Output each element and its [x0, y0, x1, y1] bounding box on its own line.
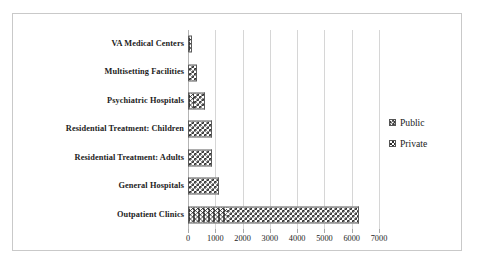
x-axis-tick-label: 0 [186, 234, 190, 243]
x-axis: 01000200030004000500060007000 [188, 229, 379, 251]
x-axis-tick [243, 229, 244, 233]
bar-segment-private[interactable] [189, 121, 212, 138]
y-axis-category-labels: VA Medical CentersMultisetting Facilitie… [13, 30, 184, 229]
category-label: Residential Treatment: Children [66, 115, 184, 143]
plot-area [188, 30, 379, 229]
x-axis-tick [188, 229, 189, 233]
bar-row[interactable] [188, 115, 379, 143]
legend-label: Private [400, 138, 427, 149]
bar-row[interactable] [188, 201, 379, 229]
bar-segment-public[interactable] [188, 36, 192, 53]
x-axis-tick [270, 229, 271, 233]
x-axis-tick [352, 229, 353, 233]
wavy-swatch-icon [389, 119, 396, 126]
bar-segment-public[interactable] [188, 206, 227, 223]
chart-plot-wrapper: VA Medical CentersMultisetting Facilitie… [13, 14, 463, 252]
stacked-bar[interactable] [188, 36, 192, 53]
x-axis-tick [324, 229, 325, 233]
gridline-7000 [379, 30, 380, 229]
x-axis-tick-label: 1000 [207, 234, 224, 243]
bar-segment-private[interactable] [189, 178, 219, 195]
stacked-bar[interactable] [188, 64, 197, 81]
category-label: Outpatient Clinics [117, 201, 184, 229]
bar-row[interactable] [188, 172, 379, 200]
bar-segment-private[interactable] [194, 93, 205, 110]
x-axis-tick-label: 2000 [234, 234, 251, 243]
stacked-bar[interactable] [188, 93, 205, 110]
x-axis-tick [215, 229, 216, 233]
legend-label: Public [400, 117, 425, 128]
x-axis-tick-label: 5000 [316, 234, 333, 243]
chart-legend: PublicPrivate [389, 112, 461, 154]
bar-row[interactable] [188, 58, 379, 86]
chart-frame: VA Medical CentersMultisetting Facilitie… [12, 13, 462, 251]
category-label: VA Medical Centers [111, 30, 184, 58]
category-label: General Hospitals [118, 172, 184, 200]
category-label: Psychiatric Hospitals [107, 87, 184, 115]
legend-item-private[interactable]: Private [389, 133, 461, 154]
bar-segment-private[interactable] [189, 149, 212, 166]
legend-item-public[interactable]: Public [389, 112, 461, 133]
bar-segment-private[interactable] [188, 64, 197, 81]
stacked-bar[interactable] [188, 121, 212, 138]
stacked-bar[interactable] [188, 149, 212, 166]
stacked-bar[interactable] [188, 178, 219, 195]
x-axis-tick [379, 229, 380, 233]
x-axis-tick-label: 4000 [289, 234, 306, 243]
bar-row[interactable] [188, 87, 379, 115]
bar-rows [188, 30, 379, 229]
category-label: Residential Treatment: Adults [75, 144, 184, 172]
x-axis-tick-label: 7000 [371, 234, 388, 243]
bar-row[interactable] [188, 144, 379, 172]
bar-segment-private[interactable] [227, 206, 359, 223]
bar-row[interactable] [188, 30, 379, 58]
category-label: Multisetting Facilities [105, 58, 185, 86]
checkerboard-swatch-icon [389, 140, 396, 147]
x-axis-tick-label: 3000 [262, 234, 279, 243]
x-axis-tick-label: 6000 [343, 234, 360, 243]
x-axis-tick [297, 229, 298, 233]
stacked-bar[interactable] [188, 206, 359, 223]
